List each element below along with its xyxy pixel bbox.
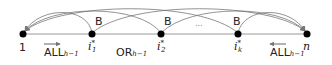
ellipsis: ... [195, 20, 203, 28]
node-label-1: 1 [19, 42, 26, 53]
block-label-b2: B [164, 16, 172, 27]
block-label-b1: B [95, 16, 103, 27]
arc-i2-to-1 [25, 11, 161, 33]
node-i1 [89, 31, 96, 38]
block-label-b3: B [233, 16, 241, 27]
arc-i1-to-1 [25, 12, 92, 33]
segment-label-all-backward: ALLh−1 [270, 47, 305, 58]
node-1 [20, 31, 27, 38]
node-ik [235, 31, 242, 38]
node-i2 [158, 31, 165, 38]
arc-ik-to-n [238, 12, 305, 33]
node-label-i2: i*2 [157, 41, 169, 52]
segment-label-all-forward: ALLh−1 [44, 47, 79, 58]
segment-label-or: ORh−1 [116, 47, 147, 58]
node-label-ik: i*k [234, 41, 245, 52]
node-n [304, 31, 311, 38]
node-label-i1: i*1 [88, 41, 100, 52]
